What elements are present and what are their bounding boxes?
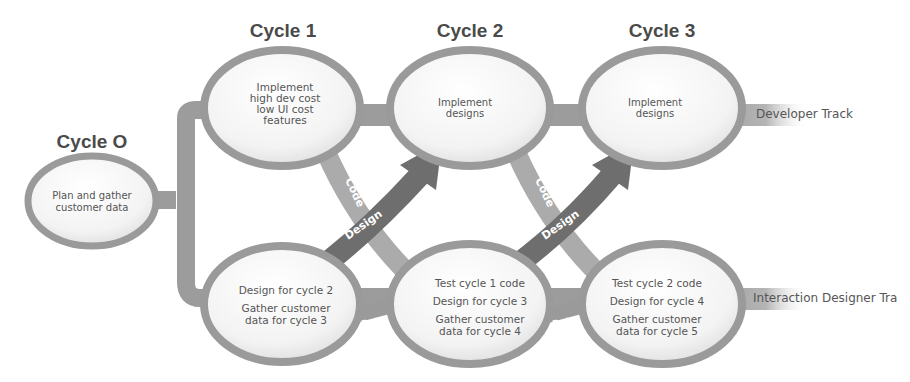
designer-line: Gather customer [433, 313, 528, 325]
designer-node-3-text: Test cycle 2 code Design for cycle 4 Gat… [610, 277, 705, 337]
cycle-2-title: Cycle 2 [437, 20, 504, 42]
cycle-2-line: designs [438, 108, 492, 119]
cycle-3-line: designs [628, 108, 682, 119]
cycle-0-title: Cycle O [57, 131, 128, 153]
cycle-1-line: features [250, 115, 321, 126]
cycle-2-line: Implement [438, 98, 492, 109]
designer-line: data for cycle 3 [239, 314, 334, 326]
designer-line: Design for cycle 4 [610, 295, 705, 307]
cycle-1-text: Implement high dev cost low UI cost feat… [250, 82, 321, 126]
cycle-0-line: Plan and gather [52, 190, 131, 202]
cycle-2-text: Implement designs [438, 98, 492, 119]
designer-line: data for cycle 5 [610, 325, 705, 337]
designer-track-label: Interaction Designer Tra [753, 291, 897, 305]
cycle-0-text: Plan and gather customer data [52, 190, 131, 213]
cycle-1-title: Cycle 1 [250, 20, 317, 42]
designer-line: Design for cycle 3 [433, 295, 528, 307]
cycle-3-text: Implement designs [628, 98, 682, 119]
designer-line: data for cycle 4 [433, 325, 528, 337]
cycle-3-title: Cycle 3 [629, 20, 696, 42]
branch-connector [150, 110, 220, 298]
designer-node-2-text: Test cycle 1 code Design for cycle 3 Gat… [433, 277, 528, 337]
developer-track-label: Developer Track [756, 107, 853, 121]
designer-line: Design for cycle 2 [239, 284, 334, 296]
designer-node-1-text: Design for cycle 2 Gather customer data … [239, 284, 334, 326]
designer-line: Test cycle 2 code [610, 277, 705, 289]
cycle-3-line: Implement [628, 98, 682, 109]
cycle-0-line: customer data [52, 201, 131, 213]
designer-line: Test cycle 1 code [433, 277, 528, 289]
designer-line: Gather customer [239, 302, 334, 314]
development-cycles-diagram: Code Code Design Design Data Data Cycle … [0, 0, 910, 382]
designer-line: Gather customer [610, 313, 705, 325]
